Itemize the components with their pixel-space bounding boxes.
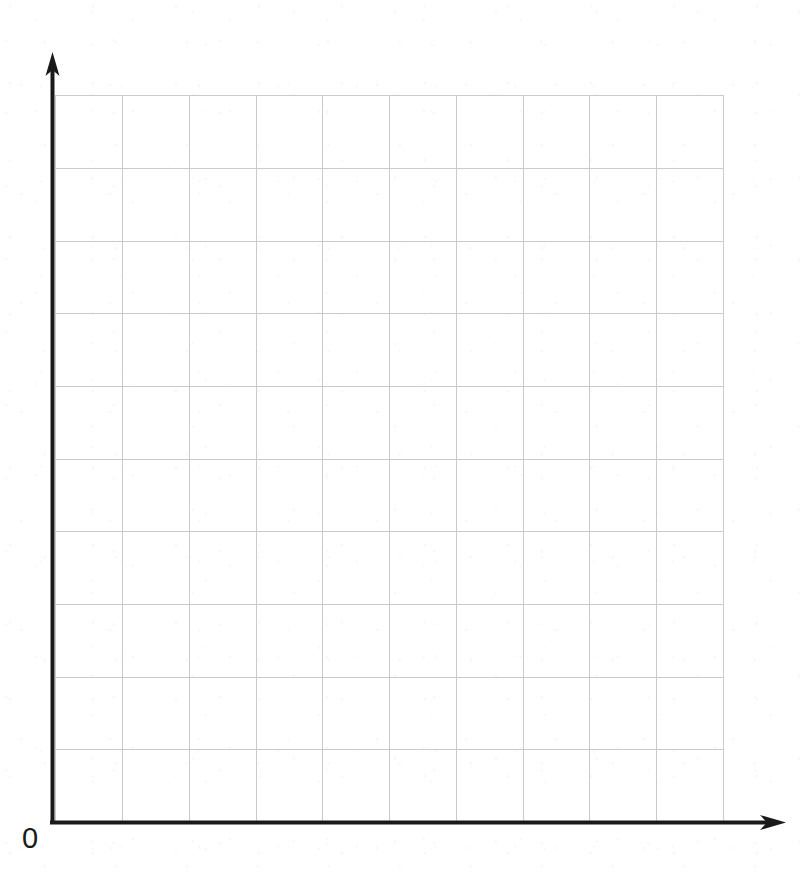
grid-lines <box>55 95 724 822</box>
coordinate-plot <box>0 0 808 884</box>
origin-label: 0 <box>22 824 38 853</box>
grid-vertical-lines <box>56 95 724 822</box>
graph-paper-figure: 0 <box>0 0 808 884</box>
